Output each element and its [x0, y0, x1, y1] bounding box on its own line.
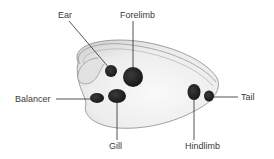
balancer-label: Balancer [15, 94, 51, 104]
balancer-dot [90, 93, 104, 103]
tail-dot [204, 91, 214, 102]
forelimb-label: Forelimb [120, 10, 155, 20]
ear-label: Ear [58, 10, 72, 20]
embryo-diagram: Ear Forelimb Balancer Gill Hindlimb Tail [0, 0, 274, 159]
gill-label: Gill [109, 141, 122, 151]
ear-dot [105, 65, 117, 77]
tail-label: Tail [241, 92, 255, 102]
hindlimb-label: Hindlimb [185, 141, 220, 151]
embryo-illustration [0, 0, 274, 159]
